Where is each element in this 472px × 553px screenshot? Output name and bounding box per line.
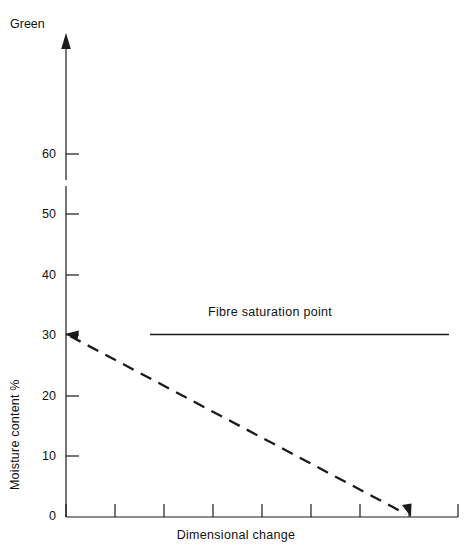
chart-figure: Green 60 50 40 30 20 10 0 Moisture conte… xyxy=(0,0,472,553)
y-axis-top-arrow-label: Green xyxy=(10,18,45,31)
chart-plot-area xyxy=(0,0,472,553)
y-tick-label-40: 40 xyxy=(30,269,56,282)
x-axis-title: Dimensional change xyxy=(0,528,472,542)
y-axis-ticks xyxy=(66,154,79,456)
y-tick-label-0: 0 xyxy=(30,510,56,523)
y-axis-arrow xyxy=(61,33,71,152)
x-axis-ticks xyxy=(66,504,458,517)
y-axis-title-wrap: Moisture content % xyxy=(8,240,28,400)
y-axis-title: Moisture content % xyxy=(8,350,22,490)
y-tick-label-20: 20 xyxy=(30,390,56,403)
y-tick-label-50: 50 xyxy=(30,208,56,221)
y-tick-label-10: 10 xyxy=(30,450,56,463)
moisture-dimensional-change-series xyxy=(65,331,412,518)
y-tick-label-30: 30 xyxy=(30,329,56,342)
fibre-saturation-point-label: Fibre saturation point xyxy=(208,305,332,319)
y-tick-label-60: 60 xyxy=(30,148,56,161)
